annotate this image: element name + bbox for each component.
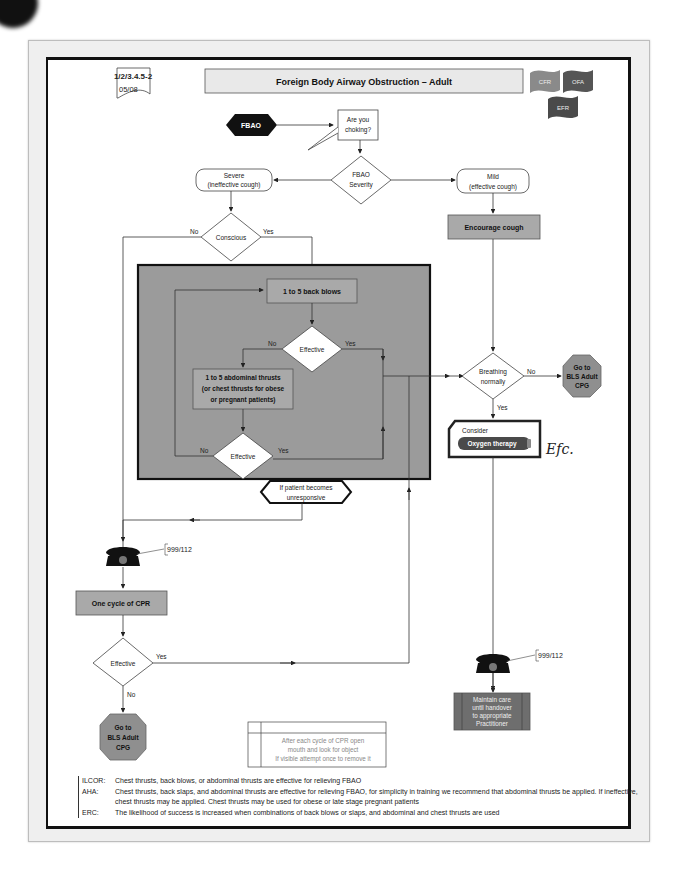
emergency-number-2: 999/112 [538,652,563,659]
severe-node: Severe (ineffective cough) [196,169,272,191]
svg-text:(effective cough): (effective cough) [469,183,517,191]
emergency-number-1: 999/112 [167,546,192,553]
svg-text:mouth and look for object: mouth and look for object [288,746,359,754]
svg-text:(or chest thrusts for obese: (or chest thrusts for obese [202,385,285,393]
svg-text:Go to: Go to [115,724,132,731]
protocol-code: 1/2/3.4.5-2 [114,72,153,81]
guideline-notes: ILCOR: Chest thrusts, back blows, or abd… [78,776,642,818]
svg-text:Yes: Yes [497,404,508,411]
svg-text:Yes: Yes [156,653,167,660]
mild-node: Mild (effective cough) [457,169,529,193]
flag-ofa: OFA [563,70,593,93]
svg-text:EFR: EFR [557,105,570,111]
start-fbao-node: FBAO [226,114,277,136]
svg-text:Severe: Severe [224,172,245,179]
goto-bls-node-bottom: Go to BLS Adult CPG [100,714,146,760]
svg-text:1 to 5 back blows: 1 to 5 back blows [283,288,341,295]
svg-text:No: No [127,691,136,698]
svg-text:Effective: Effective [231,453,256,460]
consider-oxygen-node: Consider Oxygen therapy [449,421,540,457]
note-erc: ERC: The likelihood of success is increa… [82,808,642,819]
goto-bls-node-right: Go to BLS Adult CPG [563,355,601,397]
svg-text:normally: normally [481,378,506,386]
svg-text:No: No [200,447,209,454]
cpr-tip-box: After each cycle of CPR open mouth and l… [248,722,386,767]
svg-text:Severity: Severity [349,181,373,189]
svg-text:FBAO: FBAO [352,171,370,178]
svg-text:Effective: Effective [300,346,325,353]
phone-icon [476,654,510,673]
svg-text:Consider: Consider [462,427,489,434]
protocol-code-tag: 1/2/3.4.5-2 05/08 [114,68,153,98]
title-bar: Foreign Body Airway Obstruction – Adult [205,69,523,93]
svg-text:Encourage cough: Encourage cough [464,224,523,232]
svg-text:1 to 5 abdominal thrusts: 1 to 5 abdominal thrusts [205,374,281,381]
svg-text:Mild: Mild [487,173,499,180]
svg-text:Breathing: Breathing [479,368,507,376]
svg-text:FBAO: FBAO [241,122,261,129]
abdominal-thrusts-node: 1 to 5 abdominal thrusts (or chest thrus… [193,369,293,409]
maintain-care-node: Maintain care until handover to appropri… [454,693,530,730]
svg-text:BLS Adult: BLS Adult [107,734,139,741]
svg-text:No: No [268,340,277,347]
flowchart: 1/2/3.4.5-2 05/08 Foreign Body Airway Ob… [0,0,676,870]
breathing-normally-decision: Breathing normally [462,353,524,399]
svg-text:Maintain care: Maintain care [473,696,511,703]
note-ilcor: ILCOR: Chest thrusts, back blows, or abd… [82,776,642,787]
svg-text:OFA: OFA [572,79,584,85]
handwritten-note: Efc. [545,441,574,457]
svg-text:After each cycle of CPR open: After each cycle of CPR open [282,737,365,745]
back-blows-node: 1 to 5 back blows [267,279,357,303]
protocol-date: 05/08 [119,85,138,94]
svg-text:Practitioner: Practitioner [476,720,508,727]
note-aha: AHA: Chest thrusts, back slaps, and abdo… [82,787,642,808]
conscious-yes-label: Yes [263,228,274,235]
svg-text:until handover: until handover [472,704,512,711]
oxygen-therapy-label: Oxygen therapy [467,440,517,448]
svg-text:No: No [527,368,536,375]
svg-text:BLS Adult: BLS Adult [566,373,598,380]
page-title: Foreign Body Airway Obstruction – Adult [276,77,452,87]
effective-decision-3: Effective [93,638,153,686]
cpr-cycle-node: One cycle of CPR [76,591,167,615]
svg-text:or pregnant patients): or pregnant patients) [210,396,275,404]
svg-text:If patient becomes: If patient becomes [279,484,333,492]
svg-text:Conscious: Conscious [216,234,247,241]
fbao-severity-decision: FBAO Severity [331,156,391,204]
flag-efr: EFR [548,96,578,119]
svg-text:CFR: CFR [539,79,552,85]
unresponsive-node: If patient becomes unresponsive [261,481,351,503]
svg-text:If visible attempt once to rem: If visible attempt once to remove it [275,755,371,763]
svg-text:Are you: Are you [347,116,370,124]
svg-text:One cycle of CPR: One cycle of CPR [92,600,150,608]
svg-text:(ineffective cough): (ineffective cough) [208,181,261,189]
conscious-decision: Conscious [201,213,261,261]
svg-text:Yes: Yes [278,447,289,454]
svg-text:unresponsive: unresponsive [287,494,326,502]
are-you-choking-node: Are you choking? [308,110,378,150]
svg-text:Yes: Yes [345,340,356,347]
phone-icon [106,547,140,566]
svg-text:to appropriate: to appropriate [473,712,512,720]
svg-text:CPG: CPG [575,382,589,389]
svg-text:CPG: CPG [116,744,130,751]
svg-text:choking?: choking? [345,126,371,134]
flag-cfr: CFR [530,70,560,93]
svg-text:Go to: Go to [574,364,591,371]
svg-text:Effective: Effective [111,660,136,667]
encourage-cough-node: Encourage cough [448,215,540,239]
conscious-no-label: No [190,228,199,235]
